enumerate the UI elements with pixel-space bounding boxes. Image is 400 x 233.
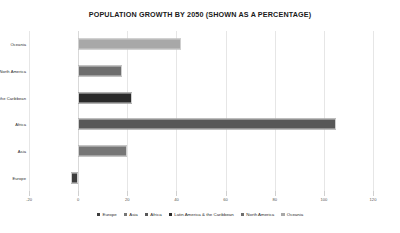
legend-swatch-icon <box>145 213 149 217</box>
bar <box>78 92 132 103</box>
chart-container: POPULATION GROWTH BY 2050 (SHOWN AS A PE… <box>0 0 400 233</box>
bar <box>78 145 127 156</box>
legend-item[interactable]: Europe <box>97 212 117 217</box>
legend-swatch-icon <box>97 213 101 217</box>
x-tick-label: 20 <box>125 197 130 202</box>
legend-label: Asia <box>129 212 138 217</box>
x-tick-label: 120 <box>370 197 377 202</box>
bar-row: Oceania <box>29 31 373 58</box>
x-tick-label: -20 <box>26 197 32 202</box>
bar <box>71 172 78 183</box>
legend-label: Oceania <box>287 212 303 217</box>
x-tick <box>29 191 30 196</box>
category-label: North America <box>0 68 26 73</box>
category-label: Africa <box>15 122 26 127</box>
legend-item[interactable]: Latin America & the Caribbean <box>169 212 234 217</box>
bar-row: Latin America & the Caribbean <box>29 84 373 111</box>
bar <box>78 39 181 50</box>
x-tick-label: 60 <box>223 197 228 202</box>
bar-series: OceaniaNorth AmericaLatin America & the … <box>29 31 373 191</box>
bar <box>78 65 122 76</box>
x-tick-label: 100 <box>320 197 327 202</box>
chart-title: POPULATION GROWTH BY 2050 (SHOWN AS A PE… <box>0 10 400 19</box>
legend-item[interactable]: Africa <box>145 212 162 217</box>
category-label: Oceania <box>10 42 26 47</box>
category-label: Latin America & the Caribbean <box>0 95 26 100</box>
legend-item[interactable]: North America <box>241 212 274 217</box>
x-tick <box>373 191 374 196</box>
legend-swatch-icon <box>169 213 173 217</box>
x-tick-label: 40 <box>174 197 179 202</box>
legend-swatch-icon <box>281 213 285 217</box>
category-label: Europe <box>12 175 26 180</box>
legend-label: Europe <box>102 212 116 217</box>
x-tick <box>275 191 276 196</box>
bar-row: Asia <box>29 138 373 165</box>
x-tick <box>78 191 79 196</box>
plot-area: OceaniaNorth AmericaLatin America & the … <box>29 31 373 191</box>
legend-item[interactable]: Oceania <box>281 212 303 217</box>
bar-row: Africa <box>29 111 373 138</box>
x-tick-label: 80 <box>272 197 277 202</box>
bar <box>78 119 336 130</box>
legend-label: Africa <box>150 212 161 217</box>
chart-legend: EuropeAsiaAfricaLatin America & the Cari… <box>0 212 400 217</box>
legend-swatch-icon <box>241 213 245 217</box>
x-tick-label: 0 <box>77 197 79 202</box>
x-tick <box>324 191 325 196</box>
gridline-120 <box>373 31 374 191</box>
category-label: Asia <box>18 148 26 153</box>
x-tick <box>226 191 227 196</box>
x-axis: -20020406080100120 <box>29 191 373 207</box>
bar-row: Europe <box>29 164 373 191</box>
legend-swatch-icon <box>124 213 128 217</box>
legend-label: North America <box>246 212 274 217</box>
legend-item[interactable]: Asia <box>124 212 138 217</box>
legend-label: Latin America & the Caribbean <box>174 212 234 217</box>
x-tick <box>176 191 177 196</box>
x-tick <box>127 191 128 196</box>
bar-row: North America <box>29 58 373 85</box>
